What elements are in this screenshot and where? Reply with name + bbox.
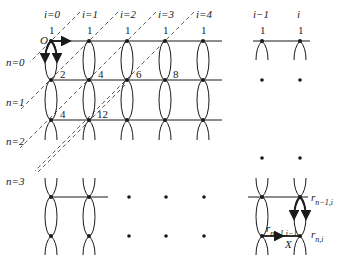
top-value-3: 1 [163, 24, 169, 36]
top-value-2: 1 [125, 24, 131, 36]
top-value-0: 1 [49, 24, 55, 36]
column-label-i0: i=0 [44, 8, 60, 20]
lattice-diagram: i=0 i=1 i=2 i=3 i=4 i−1 i 1 1 1 1 1 1 1 … [0, 0, 339, 272]
row-label-n0: n=0 [6, 56, 25, 68]
top-value-1: 1 [87, 24, 93, 36]
node-value-1-0: 2 [60, 68, 66, 80]
column-label-i1: i=1 [82, 8, 98, 20]
r-n-i-label: rn,i [311, 228, 324, 244]
row-label-n2: n=2 [6, 135, 25, 147]
origin-label: O [40, 34, 48, 46]
column-label-i3: i=3 [158, 8, 174, 20]
x-label: X [284, 238, 293, 250]
r-n-minus-1-i-label: rn−1,i [311, 191, 333, 207]
top-value-4: 1 [201, 24, 207, 36]
node-value-2-0: 4 [60, 108, 66, 120]
row-label-n1: n=1 [6, 96, 24, 108]
row-label-n3: n=3 [6, 175, 25, 187]
column-label-i2: i=2 [120, 8, 136, 20]
top-value-i-minus-1: 1 [260, 24, 266, 36]
column-label-i-minus-1: i−1 [253, 8, 269, 20]
node-value-1-1: 4 [98, 68, 104, 80]
column-label-i: i [297, 8, 300, 20]
node-value-2-1: 12 [97, 108, 108, 120]
node-value-1-2: 6 [136, 68, 142, 80]
top-value-i: 1 [298, 24, 304, 36]
node-value-1-3: 8 [173, 68, 179, 80]
r-n-minus-1-i-minus-1-label: rn−1,i−1 [266, 222, 297, 238]
column-label-i4: i=4 [196, 8, 212, 20]
